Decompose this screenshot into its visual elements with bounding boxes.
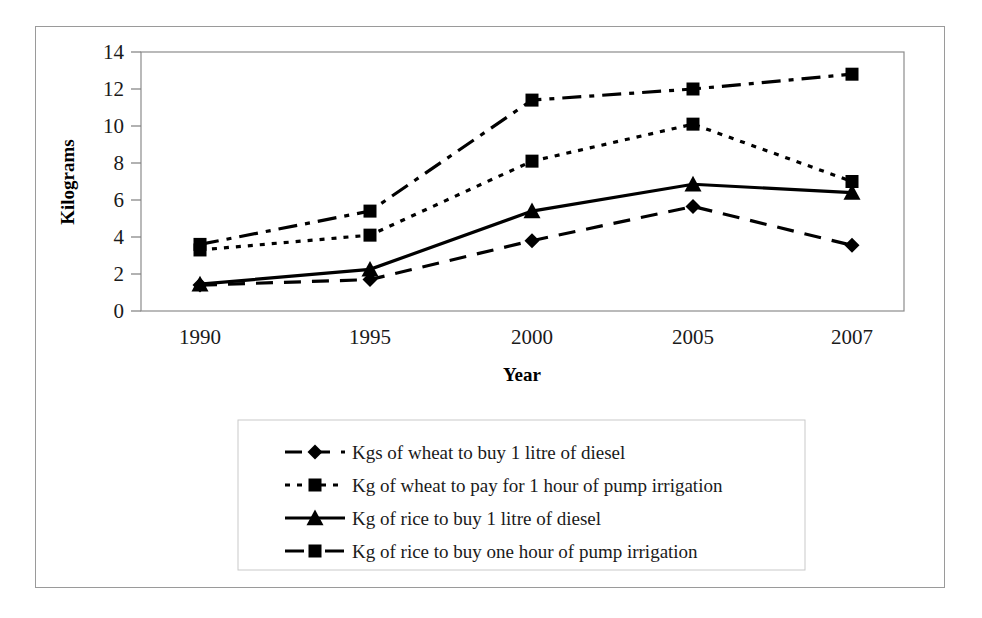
y-axis-tick-label: 14 (103, 40, 125, 64)
y-axis-tick-label: 2 (114, 262, 125, 286)
y-axis-tick-label: 8 (114, 151, 125, 175)
y-axis-tick-label: 12 (103, 77, 124, 101)
y-axis: 02468101214 (103, 40, 141, 323)
data-point-square (526, 155, 539, 168)
legend-entry-label: Kg of wheat to pay for 1 hour of pump ir… (352, 475, 723, 496)
data-point-square (687, 83, 700, 96)
legend-entry-label: Kg of rice to buy 1 litre of diesel (352, 508, 601, 529)
data-point-square (526, 94, 539, 107)
legend-swatch-marker (309, 479, 322, 492)
data-point-square (194, 238, 207, 251)
y-axis-tick-label: 10 (103, 114, 124, 138)
x-axis-tick-label: 2000 (511, 325, 553, 349)
plot-area-border (141, 52, 904, 311)
x-axis-tick-label: 2005 (672, 325, 714, 349)
x-axis: 19901995200020052007 (179, 325, 873, 349)
x-axis-tick-label: 2007 (831, 325, 873, 349)
x-axis-tick-label: 1990 (179, 325, 221, 349)
y-axis-tick-label: 6 (114, 188, 125, 212)
x-axis-title: Year (503, 364, 542, 385)
data-point-square (364, 229, 377, 242)
y-axis-tick-label: 4 (114, 225, 125, 249)
line-chart: 02468101214 19901995200020052007 Kilogra… (0, 0, 982, 618)
figure-root: 02468101214 19901995200020052007 Kilogra… (0, 0, 982, 618)
legend-entry-label: Kgs of wheat to buy 1 litre of diesel (352, 442, 625, 463)
legend: Kgs of wheat to buy 1 litre of dieselKg … (238, 420, 805, 570)
legend-swatch-marker (309, 545, 322, 558)
x-axis-tick-label: 1995 (349, 325, 391, 349)
y-axis-title: Kilograms (57, 139, 78, 225)
legend-entry-label: Kg of rice to buy one hour of pump irrig… (352, 541, 698, 562)
data-point-square (364, 205, 377, 218)
data-point-square (846, 68, 859, 81)
data-point-square (687, 118, 700, 131)
y-axis-tick-label: 0 (114, 299, 125, 323)
